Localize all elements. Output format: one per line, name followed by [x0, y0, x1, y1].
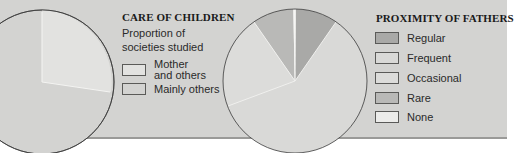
- care-pie: [0, 10, 114, 153]
- care-title: CARE OF CHILDREN: [122, 11, 234, 23]
- legend-item-mother-and-others: Mother and others: [122, 59, 206, 81]
- legend-item-frequent: Frequent: [375, 52, 451, 64]
- legend-swatch: [375, 72, 399, 84]
- legend-swatch: [122, 83, 146, 95]
- legend-swatch: [375, 32, 399, 44]
- legend-swatch: [375, 92, 399, 104]
- legend-swatch: [122, 64, 146, 76]
- legend-swatch: [375, 111, 399, 123]
- legend-item-occasional: Occasional: [375, 72, 461, 84]
- legend-item-mainly-others: Mainly others: [122, 83, 219, 95]
- legend-item-regular: Regular: [375, 32, 446, 44]
- pie-slice-mother-and-others: [42, 10, 112, 92]
- legend-swatch: [375, 52, 399, 64]
- fathers-title: PROXIMITY OF FATHERS: [376, 12, 514, 24]
- care-subtitle: Proportion of societies studied: [122, 26, 203, 54]
- legend-item-none: None: [375, 111, 433, 123]
- fathers-pie: [223, 9, 367, 153]
- legend-item-rare: Rare: [375, 92, 431, 104]
